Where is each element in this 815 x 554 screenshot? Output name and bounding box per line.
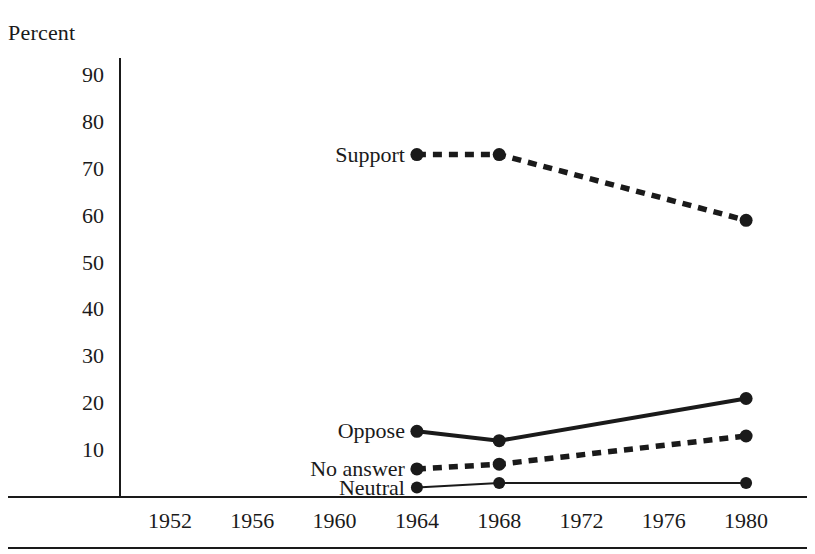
data-point-marker — [493, 458, 506, 471]
data-point-marker — [493, 148, 506, 161]
data-point-marker — [410, 425, 423, 438]
series-line — [417, 436, 746, 469]
x-tick-label: 1976 — [624, 510, 704, 532]
x-tick-label: 1960 — [295, 510, 375, 532]
y-tick-label: 80 — [52, 111, 104, 133]
data-point-marker — [410, 148, 423, 161]
data-point-marker — [493, 434, 506, 447]
y-tick-label: 50 — [52, 252, 104, 274]
series-label-support: Support — [335, 144, 405, 166]
series-layer — [410, 148, 752, 494]
y-tick-label: 90 — [52, 64, 104, 86]
data-point-marker — [493, 477, 505, 489]
chart-figure: Percent 908070605040302010 1952195619601… — [0, 0, 815, 554]
data-point-marker — [411, 482, 423, 494]
y-tick-label: 10 — [52, 439, 104, 461]
axis-lines — [8, 58, 807, 548]
y-tick-label: 40 — [52, 298, 104, 320]
series-support — [410, 148, 752, 227]
data-point-marker — [740, 392, 753, 405]
y-tick-label: 70 — [52, 158, 104, 180]
data-point-marker — [740, 430, 753, 443]
x-tick-label: 1968 — [459, 510, 539, 532]
series-oppose — [410, 392, 752, 447]
chart-plot-area — [0, 0, 815, 554]
y-tick-label: 60 — [52, 205, 104, 227]
y-tick-label: 20 — [52, 392, 104, 414]
data-point-marker — [740, 477, 752, 489]
x-tick-label: 1972 — [542, 510, 622, 532]
y-tick-label: 30 — [52, 345, 104, 367]
series-line — [417, 483, 746, 488]
series-line — [417, 155, 746, 221]
series-line — [417, 399, 746, 441]
series-label-neutral: Neutral — [339, 477, 405, 499]
data-point-marker — [740, 214, 753, 227]
series-neutral — [411, 477, 752, 494]
x-tick-label: 1952 — [130, 510, 210, 532]
data-point-marker — [410, 462, 423, 475]
series-label-oppose: Oppose — [338, 420, 405, 442]
x-tick-label: 1956 — [212, 510, 292, 532]
x-tick-label: 1964 — [377, 510, 457, 532]
x-tick-label: 1980 — [706, 510, 786, 532]
